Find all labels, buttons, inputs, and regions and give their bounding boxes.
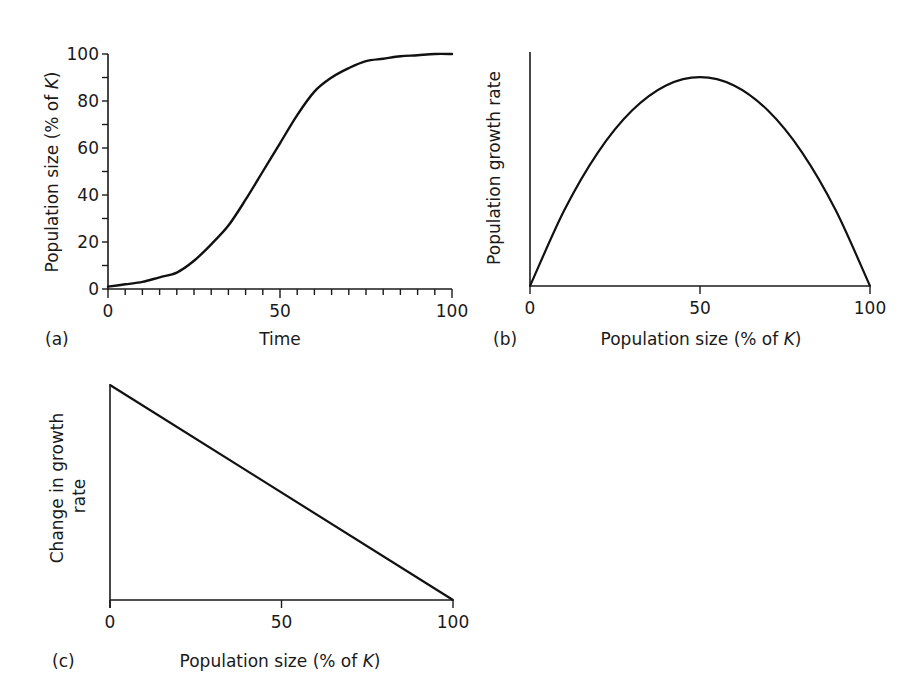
panel-a-ticks: [102, 54, 452, 298]
panel-c-ticks: [110, 600, 453, 608]
y-tick-label: 60: [77, 138, 99, 158]
panel-a-x-tick-labels: 050100: [103, 301, 469, 321]
figure: 020406080100 050100 Population size (% o…: [0, 0, 917, 693]
panel-a-label: (a): [45, 329, 69, 349]
y-tick-label: 80: [77, 91, 99, 111]
y-tick-label: 20: [77, 232, 99, 252]
panel-b-ticks: [530, 286, 870, 294]
panel-a-curve: [108, 54, 452, 287]
panel-b-growth-rate: 050100 Population growth rate Population…: [484, 52, 886, 349]
x-tick-label: 0: [105, 612, 116, 632]
panel-c-y-label-line2: rate: [69, 479, 89, 514]
x-tick-label: 50: [689, 298, 711, 318]
panel-c-x-tick-labels: 050100: [105, 612, 470, 632]
panel-c-change-in-growth-rate: 050100 Change in growth rate Population …: [47, 384, 469, 671]
panel-b-y-label: Population growth rate: [484, 71, 504, 265]
panel-a-logistic-curve: 020406080100 050100 Population size (% o…: [42, 44, 468, 349]
panel-c-x-label: Population size (% of K): [180, 651, 381, 671]
x-tick-label: 100: [436, 301, 468, 321]
x-tick-label: 0: [103, 301, 114, 321]
panel-a-y-tick-labels: 020406080100: [67, 44, 99, 299]
panel-b-label: (b): [493, 329, 517, 349]
panel-a-y-label: Population size (% of K): [42, 72, 62, 273]
x-tick-label: 50: [269, 301, 291, 321]
panel-b-x-label: Population size (% of K): [601, 329, 802, 349]
y-tick-label: 40: [77, 185, 99, 205]
x-tick-label: 0: [525, 298, 536, 318]
x-tick-label: 100: [854, 298, 886, 318]
panel-c-line: [110, 385, 453, 600]
y-tick-label: 0: [88, 279, 99, 299]
panel-a-x-label: Time: [258, 329, 301, 349]
panel-b-x-tick-labels: 050100: [525, 298, 887, 318]
x-tick-label: 100: [437, 612, 469, 632]
panel-c-y-label-line1: Change in growth: [47, 413, 67, 564]
y-tick-label: 100: [67, 44, 99, 64]
panel-b-curve: [530, 77, 870, 286]
x-tick-label: 50: [271, 612, 293, 632]
panel-c-label: (c): [52, 651, 75, 671]
